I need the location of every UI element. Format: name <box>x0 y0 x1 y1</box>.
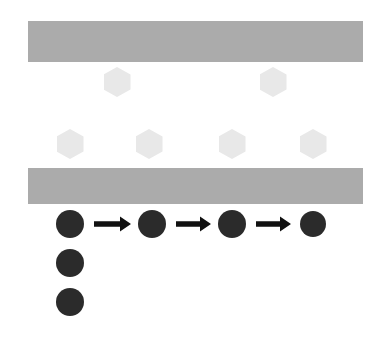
hexagon-lower-3 <box>219 129 246 159</box>
arrow-right-1 <box>94 215 131 233</box>
particle-stack-1 <box>56 249 84 277</box>
hexagon-upper-2 <box>260 67 287 97</box>
hexagon-lower-4 <box>300 129 327 159</box>
schematic-figure <box>0 0 384 344</box>
particle-chain-3 <box>218 210 246 238</box>
particle-chain-2 <box>138 210 166 238</box>
arrow-right-2 <box>176 215 211 233</box>
arrow-right-3 <box>256 215 291 233</box>
hexagon-lower-1 <box>57 129 84 159</box>
particle-stack-2 <box>56 288 84 316</box>
hexagon-lower-2 <box>136 129 163 159</box>
bottom-layer-bar <box>28 168 363 204</box>
hexagon-upper-1 <box>104 67 131 97</box>
particle-chain-4 <box>300 211 326 237</box>
particle-chain-1 <box>56 210 84 238</box>
top-layer-bar <box>28 21 363 62</box>
